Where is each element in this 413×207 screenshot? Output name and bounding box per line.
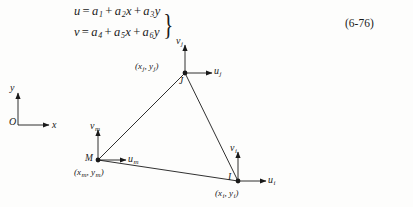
- triangle-element: [98, 73, 238, 181]
- triangle-edge-jm: [98, 73, 185, 160]
- node-i-v-label: vi: [230, 142, 237, 155]
- global-x-axis-label: x: [52, 119, 56, 130]
- node-j: [183, 45, 212, 75]
- node-i: [236, 152, 266, 183]
- node-i-coordinates: (xi, yi): [215, 188, 238, 200]
- node-m-dot: [96, 158, 101, 163]
- triangle-edge-ji: [185, 73, 238, 181]
- node-i-dot: [236, 179, 241, 184]
- figure-page: u=a1+a2x+a3y v=a4+a5x+a6y } (6-76): [0, 0, 413, 207]
- node-m-coordinates: (xm, ym): [74, 167, 104, 179]
- node-j-v-label: vj: [176, 35, 183, 48]
- element-diagram: [0, 0, 413, 207]
- node-i-label: I: [228, 172, 231, 182]
- node-i-u-label: ui: [268, 174, 275, 187]
- triangle-edge-mi: [98, 160, 238, 181]
- node-m-v-label: vm: [90, 120, 100, 133]
- global-origin-label: O: [9, 116, 16, 127]
- node-j-label: J: [179, 76, 183, 86]
- node-m-u-label: um: [128, 153, 139, 166]
- global-axes: [18, 93, 49, 125]
- node-m-label: M: [85, 153, 93, 163]
- node-j-u-label: uj: [214, 65, 221, 78]
- node-j-coordinates: (xj, yj): [135, 61, 158, 73]
- node-j-dot: [183, 71, 188, 76]
- global-y-axis-label: y: [10, 82, 14, 93]
